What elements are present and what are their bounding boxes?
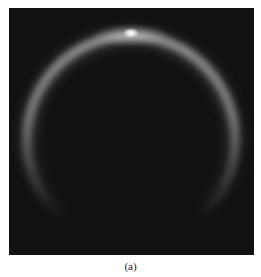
figure-caption: (a): [0, 259, 261, 273]
ring-image: [9, 8, 254, 255]
ring-image-panel: [9, 8, 254, 255]
highlight-spot: [123, 28, 139, 38]
figure: (a): [0, 0, 261, 277]
